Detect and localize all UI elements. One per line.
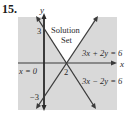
tick-x-2: 2 [64, 67, 68, 77]
equation-label-x0: x = 0 [18, 66, 38, 76]
graph: y x 3 −3 2 Solution Set 3x + 2y = 6 3x −… [0, 0, 133, 116]
y-axis-label: y [39, 5, 44, 15]
x-axis-label: x [119, 59, 124, 69]
solution-label-line1: Solution [51, 25, 81, 35]
tick-y-3: 3 [37, 26, 41, 36]
equation-label-1: 3x + 2y = 6 [81, 48, 123, 58]
tick-y-neg3: −3 [30, 92, 39, 102]
equation-label-2: 3x − 2y = 6 [81, 76, 123, 86]
solution-label-line2: Set [61, 35, 73, 45]
